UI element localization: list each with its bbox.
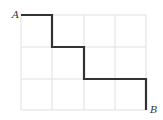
label-end-b: B: [149, 104, 157, 115]
label-start-a: A: [11, 9, 19, 20]
grid-path-diagram: A B: [0, 0, 163, 120]
